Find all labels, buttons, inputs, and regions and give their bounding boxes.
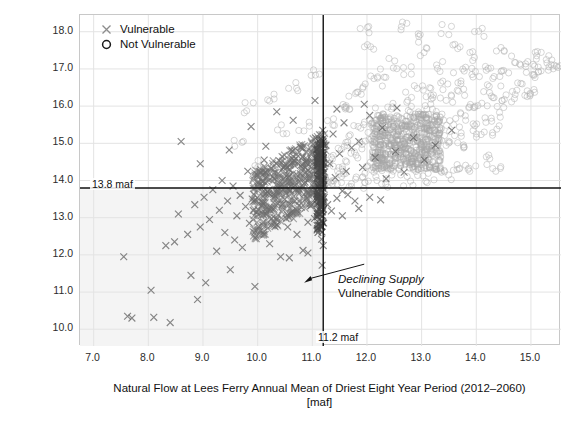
circle-icon [100, 38, 113, 51]
cross-icon [100, 23, 113, 36]
x-tick-label: 10.0 [237, 351, 277, 363]
y-tick-label: 10.0 [39, 321, 73, 333]
y-tick-label: 14.0 [39, 173, 73, 185]
y-tick-label: 16.0 [39, 98, 73, 110]
x-tick-label: 14.0 [455, 351, 495, 363]
scatter-plot-figure: Natural Flow at Lees Ferry Annual Mean (… [0, 0, 575, 430]
y-tick-label: 15.0 [39, 135, 73, 147]
chart-svg [80, 15, 561, 346]
annotation-line1: Declining Supply [338, 272, 450, 286]
x-tick-label: 15.0 [510, 351, 550, 363]
x-tick-label: 8.0 [127, 351, 167, 363]
legend-label-vulnerable: Vulnerable [120, 22, 175, 37]
x-tick-label: 13.0 [401, 351, 441, 363]
reference-label-horizontal: 13.8 maf [90, 178, 135, 190]
y-tick-label: 11.0 [39, 284, 73, 296]
y-tick-label: 17.0 [39, 61, 73, 73]
x-axis-label: Natural Flow at Lees Ferry Annual Mean o… [79, 381, 560, 409]
data-canvas [80, 15, 559, 344]
legend: Vulnerable Not Vulnerable [100, 22, 196, 52]
x-axis-label-line1: Natural Flow at Lees Ferry Annual Mean o… [79, 381, 560, 395]
annotation-line2: Vulnerable Conditions [338, 286, 450, 300]
y-tick-label: 13.0 [39, 210, 73, 222]
x-tick-label: 7.0 [73, 351, 113, 363]
plot-area [79, 14, 560, 345]
legend-item-vulnerable: Vulnerable [100, 22, 196, 37]
annotation-declining-supply: Declining Supply Vulnerable Conditions [338, 272, 450, 300]
x-axis-label-line2: [maf] [79, 395, 560, 409]
legend-item-not-vulnerable: Not Vulnerable [100, 37, 196, 52]
y-tick-label: 18.0 [39, 24, 73, 36]
legend-label-not-vulnerable: Not Vulnerable [120, 37, 196, 52]
y-tick-label: 12.0 [39, 247, 73, 259]
reference-label-vertical: 11.2 maf [316, 331, 360, 343]
x-tick-label: 11.0 [291, 351, 331, 363]
x-tick-label: 9.0 [182, 351, 222, 363]
x-tick-label: 12.0 [346, 351, 386, 363]
